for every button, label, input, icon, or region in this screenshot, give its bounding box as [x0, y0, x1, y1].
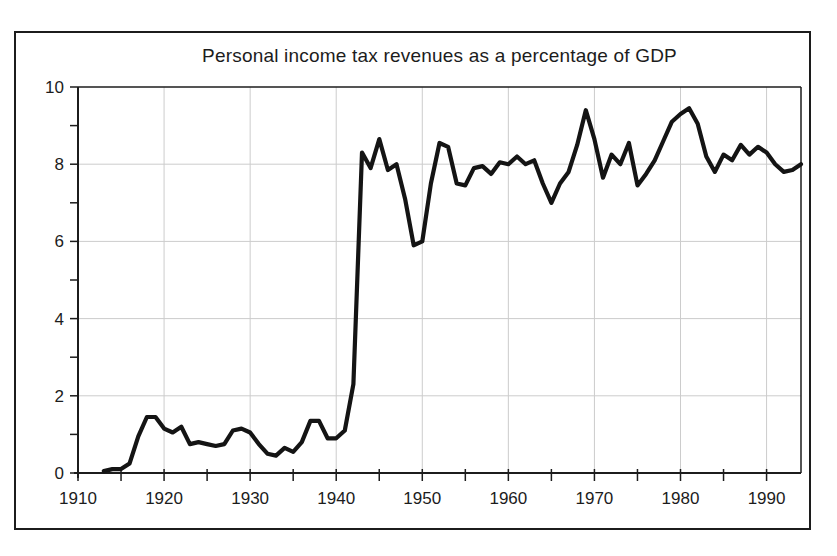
x-axis-tick-label: 1930	[231, 489, 269, 508]
y-axis-tick-label: 6	[55, 232, 64, 251]
x-axis-tick-label: 1940	[317, 489, 355, 508]
data-line	[104, 108, 801, 471]
x-axis-tick-label: 1950	[403, 489, 441, 508]
x-axis-tick-label: 1970	[576, 489, 614, 508]
x-axis-tick-label: 1960	[489, 489, 527, 508]
y-axis-tick-label: 2	[55, 387, 64, 406]
y-axis-tick-label: 4	[55, 310, 64, 329]
chart-canvas: 0246810191019201930194019501960197019801…	[0, 0, 837, 556]
x-axis-tick-label: 1910	[59, 489, 97, 508]
y-axis-tick-label: 0	[55, 464, 64, 483]
x-axis-tick-label: 1990	[748, 489, 786, 508]
y-axis-tick-label: 10	[45, 78, 64, 97]
y-axis-tick-label: 8	[55, 155, 64, 174]
x-axis-tick-label: 1920	[145, 489, 183, 508]
x-axis-tick-label: 1980	[662, 489, 700, 508]
